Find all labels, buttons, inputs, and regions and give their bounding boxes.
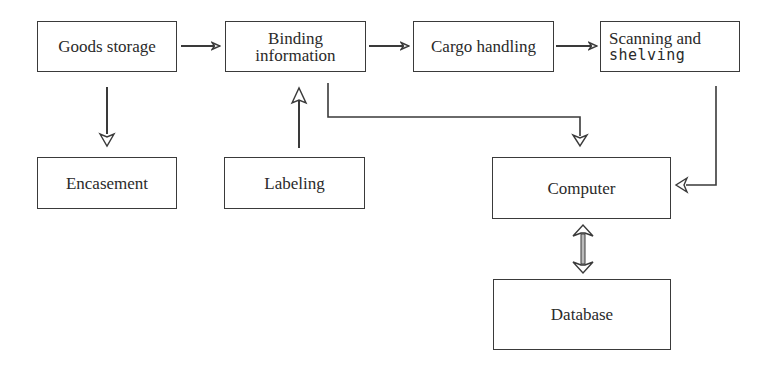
arrow-goods-to-encasement xyxy=(100,87,114,146)
node-labeling: Labeling xyxy=(224,157,365,209)
node-binding-information-line1: Binding xyxy=(268,30,323,47)
node-encasement: Encasement xyxy=(37,157,177,209)
node-binding-information: Binding information xyxy=(225,21,366,72)
node-scanning-shelving: Scanning and shelving xyxy=(600,21,740,72)
node-goods-storage-label: Goods storage xyxy=(58,38,156,55)
node-cargo-handling: Cargo handling xyxy=(413,21,554,72)
node-computer-label: Computer xyxy=(548,180,616,197)
node-computer: Computer xyxy=(492,157,671,219)
node-scanning-shelving-line2: shelving xyxy=(609,47,685,64)
node-database: Database xyxy=(493,279,671,350)
node-encasement-label: Encasement xyxy=(66,175,148,192)
arrow-scanning-to-computer xyxy=(676,86,716,192)
node-binding-information-line2: information xyxy=(255,47,335,64)
arrow-computer-database-bidirectional xyxy=(573,225,593,273)
node-labeling-label: Labeling xyxy=(264,175,324,192)
node-goods-storage: Goods storage xyxy=(37,21,177,72)
node-database-label: Database xyxy=(551,306,613,323)
arrow-labeling-to-binding xyxy=(292,88,306,148)
arrow-binding-to-computer xyxy=(328,83,587,146)
flowchart-canvas: Goods storage Binding information Cargo … xyxy=(0,0,767,368)
node-cargo-handling-label: Cargo handling xyxy=(431,38,536,55)
node-scanning-shelving-line1: Scanning and xyxy=(609,30,701,47)
